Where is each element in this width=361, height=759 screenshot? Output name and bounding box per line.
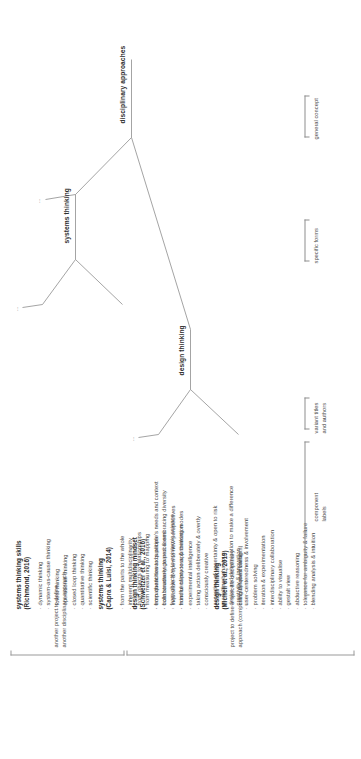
systems-to-variant-2 xyxy=(75,259,122,304)
list-item: system-as-cause thinking xyxy=(43,441,51,609)
bracket-component-labels xyxy=(304,441,309,595)
diagram-canvas: disciplinary approaches systems thinking… xyxy=(0,0,361,759)
note-design-project: project to define a specific disciplinar… xyxy=(228,545,244,647)
variant-title-design-thinking-micheli: design thinking (Micheli et al., 2019) xyxy=(212,441,228,609)
list-item: from the parts to the whole xyxy=(117,441,125,609)
caption-variant-titles: variant titles and authors xyxy=(312,402,328,433)
systems-ellipsis-wire xyxy=(22,304,42,307)
design-to-variant-2 xyxy=(190,389,238,434)
list-item: consciously creative xyxy=(201,441,209,609)
bracket-specific-forms xyxy=(304,219,309,261)
list-item: scientific thinking xyxy=(85,441,93,609)
bracket-systems-project xyxy=(10,650,124,655)
variant-title-systems-thinking-skills: systems thinking skills (Richmond, 2016) xyxy=(14,441,30,609)
design-to-variant-1 xyxy=(158,389,190,434)
bracket-variant-titles xyxy=(304,397,309,429)
list-item: experimental intelligence xyxy=(185,441,193,609)
list-item: quantitative thinking xyxy=(77,441,85,609)
list-item: ability to visualise xyxy=(275,441,283,609)
list-item: mindful of process & thinking modes xyxy=(176,441,184,609)
bracket-general-concept xyxy=(304,95,309,137)
list-item: closed loop thinking xyxy=(69,441,77,609)
caption-general-concept: general concept xyxy=(312,98,320,139)
design-ellipsis-wire xyxy=(138,434,158,437)
root-to-ellipsis xyxy=(45,194,75,199)
list-item: blending analysis & intuition xyxy=(308,441,316,609)
list-item: abductive reasoning xyxy=(292,441,300,609)
node-design-thinking: design thinking xyxy=(177,325,184,375)
ellipsis-root: ... xyxy=(34,198,40,203)
list-item: collaboratively geared & embracing diver… xyxy=(159,441,167,609)
note-systems-project: another project to define another discip… xyxy=(52,571,68,647)
list-item: inquisitive & open to new perspectives xyxy=(168,441,176,609)
list-item: interdisciplinary collaboration xyxy=(267,441,275,609)
list-item: dynamic thinking xyxy=(35,441,43,609)
bracket-design-project xyxy=(126,650,354,655)
list-item: iteration & experimentation xyxy=(258,441,266,609)
ellipsis-systems: ... xyxy=(12,306,18,311)
list-item: taking action deliberately & overtly xyxy=(193,441,201,609)
root-to-design xyxy=(131,137,190,329)
node-disciplinary-approaches: disciplinary approaches xyxy=(118,45,125,123)
list-item: gestalt view xyxy=(283,441,291,609)
node-systems-thinking: systems thinking xyxy=(62,188,69,243)
variant-title-systems-thinking-capra: systems thinking (Capra & Luisi, 2014) xyxy=(96,441,112,609)
caption-component-labels: component labels xyxy=(312,492,328,521)
systems-to-variant-1 xyxy=(42,259,75,304)
caption-specific-forms: specific forms xyxy=(312,228,320,263)
variant-title-design-thinking-mindset: design thinking mindset (Schweitzer et a… xyxy=(130,441,146,609)
root-to-systems xyxy=(75,137,131,194)
list-item: problem solving xyxy=(250,441,258,609)
ellipsis-design: ... xyxy=(128,436,134,441)
list-item: empathetic towards people's needs and co… xyxy=(151,441,159,609)
